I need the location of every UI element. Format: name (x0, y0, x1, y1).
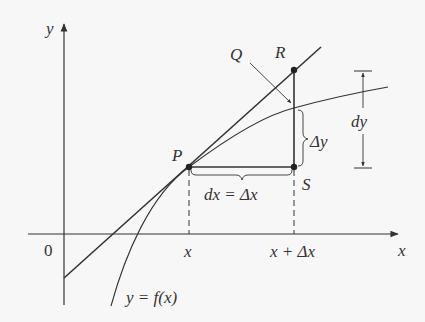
tick-label-x: x (183, 242, 192, 261)
point-S (291, 164, 297, 170)
tick-label-x-plus-dx: x + Δx (269, 242, 315, 261)
origin-label: 0 (44, 241, 53, 260)
point-R (291, 67, 297, 73)
dx-brace (191, 170, 292, 180)
label-P: P (171, 146, 182, 165)
label-S: S (302, 175, 311, 194)
delta-y-brace (298, 110, 308, 166)
x-axis-label: x (397, 241, 406, 260)
q-pointer-arrow (250, 63, 291, 103)
dy-label: dy (351, 112, 368, 131)
diagram-canvas: y x 0 x x + Δx P Q R S dx = Δx Δy dy y =… (0, 0, 425, 322)
y-axis-label: y (44, 19, 54, 38)
dx-label: dx = Δx (204, 185, 258, 204)
label-R: R (274, 43, 286, 62)
curve-label: y = f(x) (124, 288, 177, 307)
label-Q: Q (230, 45, 242, 64)
differential-diagram: y x 0 x x + Δx P Q R S dx = Δx Δy dy y =… (0, 0, 425, 322)
point-P (186, 164, 192, 170)
delta-y-label: Δy (309, 132, 328, 151)
